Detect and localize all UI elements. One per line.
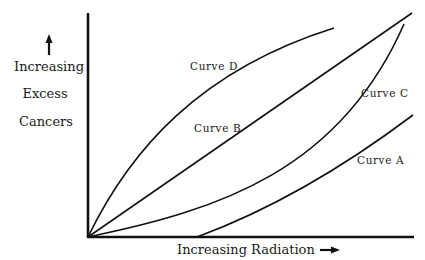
y-axis-label-line2: Excess xyxy=(22,86,67,101)
y-axis-label-line1: Increasing xyxy=(14,59,84,74)
up-arrow-icon xyxy=(46,34,53,55)
curve-b-line xyxy=(88,13,412,237)
curve-b-label: Curve B xyxy=(194,122,241,134)
dose-response-chart: Increasing Excess Cancers Increasing Rad… xyxy=(0,0,425,260)
y-axis-label-line3: Cancers xyxy=(19,114,73,129)
right-arrow-icon xyxy=(320,247,340,254)
x-axis-label: Increasing Radiation xyxy=(177,242,315,257)
curve-d-label: Curve D xyxy=(190,60,238,72)
curve-a-label: Curve A xyxy=(357,154,404,166)
curve-c-label: Curve C xyxy=(361,87,409,99)
